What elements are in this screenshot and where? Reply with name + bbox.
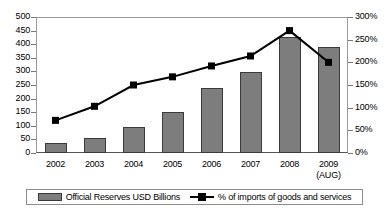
right-axis-tick-label: 0%	[355, 148, 389, 157]
legend-entry-bar: Official Reserves USD Billions	[38, 192, 180, 202]
right-axis-tick-label: 200%	[355, 57, 389, 66]
category-label-year: 2005	[163, 159, 182, 169]
category-label-year: 2009	[319, 159, 338, 169]
line-data-point-marker: 2006: 192%	[208, 62, 215, 69]
right-axis-tick-mark	[348, 40, 353, 41]
line-data-point-marker: 2009: 200%	[325, 59, 332, 66]
chart-legend: Official Reserves USD Billions % of impo…	[26, 189, 363, 205]
line-data-point-marker: 2003: 103%	[91, 103, 98, 110]
category-label-year: 2002	[46, 159, 65, 169]
category-label-year: 2007	[241, 159, 260, 169]
left-axis-tick-label: 450	[0, 26, 30, 35]
right-axis-tick-mark	[348, 153, 353, 154]
left-axis-tick-label: 300	[0, 66, 30, 75]
category-label: 2005	[153, 159, 193, 170]
category-label: 2009(AUG)	[309, 159, 349, 181]
line-data-point-marker: 2007: 214%	[247, 52, 254, 59]
line-path-group: 2002: 72%2003: 103%2004: 150%2005: 168%2…	[36, 17, 348, 153]
legend-label-line: % of imports of goods and services	[218, 192, 351, 202]
line-data-point-marker: 2004: 150%	[130, 82, 137, 89]
category-axis: 20022003200420052006200720082009(AUG)	[36, 156, 348, 186]
left-axis-tick-label: 350	[0, 53, 30, 62]
line-data-point-marker: 2002: 72%	[52, 117, 59, 124]
right-axis-tick-mark	[348, 62, 353, 63]
category-label: 2002	[36, 159, 76, 170]
category-label-year: 2003	[85, 159, 104, 169]
left-axis-tick-label: 50	[0, 134, 30, 143]
category-label: 2003	[75, 159, 115, 170]
left-axis-tick-mark	[31, 153, 36, 154]
right-axis-tick-mark	[348, 17, 353, 18]
line-data-point-marker: 2005: 168%	[169, 73, 176, 80]
category-label: 2004	[114, 159, 154, 170]
category-label-year: 2004	[124, 159, 143, 169]
line-data-point-marker: 2008: 270%	[286, 27, 293, 34]
category-label-year: 2006	[202, 159, 221, 169]
right-axis-tick-label: 300%	[355, 12, 389, 21]
left-axis-tick-label: 400	[0, 39, 30, 48]
chart-container: 050100150200250300350400450500 0%50%100%…	[0, 0, 389, 218]
legend-entry-line: % of imports of goods and services	[190, 192, 351, 202]
line-series-percent-imports: 2002: 72%2003: 103%2004: 150%2005: 168%2…	[36, 17, 348, 153]
right-axis-tick-label: 50%	[355, 125, 389, 134]
category-label: 2008	[270, 159, 310, 170]
category-label: 2006	[192, 159, 232, 170]
right-axis-tick-label: 100%	[355, 103, 389, 112]
left-axis-tick-label: 200	[0, 94, 30, 103]
left-axis-tick-label: 0	[0, 148, 30, 157]
left-axis-tick-label: 250	[0, 80, 30, 89]
category-label: 2007	[231, 159, 271, 170]
category-label-sub: (AUG)	[309, 170, 349, 181]
legend-label-bar: Official Reserves USD Billions	[66, 192, 180, 202]
bar-swatch-icon	[38, 193, 62, 201]
right-axis-tick-mark	[348, 108, 353, 109]
line-square-marker-icon	[190, 193, 214, 201]
right-axis-tick-label: 150%	[355, 80, 389, 89]
left-axis-tick-label: 100	[0, 121, 30, 130]
category-label-year: 2008	[280, 159, 299, 169]
right-axis-tick-mark	[348, 85, 353, 86]
right-axis-tick-label: 250%	[355, 35, 389, 44]
right-axis-tick-mark	[348, 130, 353, 131]
left-axis-tick-label: 150	[0, 107, 30, 116]
left-axis-tick-label: 500	[0, 12, 30, 21]
